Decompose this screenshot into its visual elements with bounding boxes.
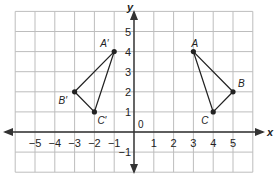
coordinate-plane: x y 0 −5−4−3−2−11234554321−1 ABCA′B′C′	[0, 0, 274, 178]
x-axis-label: x	[266, 126, 274, 138]
vertex-point	[230, 89, 235, 94]
y-tick-label: 1	[125, 106, 131, 118]
x-axis-left-arrow-icon	[3, 128, 13, 136]
vertex-point	[72, 89, 77, 94]
y-tick-label: 5	[125, 26, 131, 38]
origin-label: 0	[138, 119, 144, 130]
y-tick-label: 3	[125, 66, 131, 78]
vertex-label: C	[201, 115, 209, 126]
x-axis-right-arrow-icon	[255, 128, 265, 136]
y-axis-label: y	[126, 1, 134, 13]
vertex-point	[211, 109, 216, 114]
triangles: ABCA′B′C′	[59, 38, 245, 126]
x-tick-label: 5	[230, 137, 236, 149]
x-tick-label: −4	[49, 137, 62, 149]
x-tick-label: 1	[151, 137, 157, 149]
vertex-label: B′	[59, 95, 69, 106]
x-tick-label: −5	[29, 137, 42, 149]
y-tick-label: 2	[125, 86, 131, 98]
vertex-point	[112, 49, 117, 54]
vertex-label: C′	[97, 115, 107, 126]
x-tick-label: 4	[210, 137, 216, 149]
x-tick-label: 3	[190, 137, 196, 149]
vertex-label: A′	[99, 38, 110, 49]
x-tick-label: 2	[171, 137, 177, 149]
vertex-point	[92, 109, 97, 114]
vertex-point	[191, 49, 196, 54]
x-tick-label: −2	[88, 137, 101, 149]
y-tick-label: −1	[118, 146, 131, 158]
y-tick-label: 4	[125, 46, 131, 58]
vertex-label: A	[190, 38, 198, 49]
vertex-label: B	[238, 78, 245, 89]
x-tick-label: −3	[68, 137, 81, 149]
